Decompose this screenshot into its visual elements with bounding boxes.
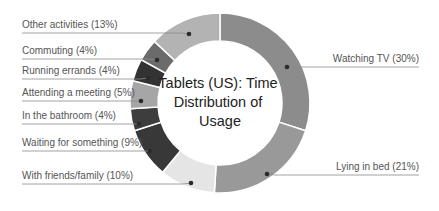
leader-dot <box>265 172 270 177</box>
slice-label: Running errands (4%) <box>22 65 120 76</box>
chart-title-line-2: Distribution of <box>174 94 264 110</box>
slice-label: With friends/family (10%) <box>22 170 133 181</box>
leader-line <box>22 78 148 79</box>
leader-dot <box>285 65 290 70</box>
slice-label: Waiting for something (9%) <box>22 137 142 148</box>
leader-dot <box>189 181 194 186</box>
chart-title-line-3: Usage <box>199 113 241 129</box>
leader-dot <box>187 32 192 37</box>
leader-line <box>267 174 419 175</box>
leader-dot <box>139 99 144 104</box>
slice-label: In the bathroom (4%) <box>22 110 116 121</box>
leader-dot <box>148 149 153 154</box>
leader-dot <box>155 58 160 63</box>
leader-dot <box>137 122 142 127</box>
chart-title: Tablets (US): Time Distribution of Usage <box>158 75 281 129</box>
slice-label: Watching TV (30%) <box>333 53 419 64</box>
slice-label: Other activities (13%) <box>22 19 118 30</box>
slice-label: Attending a meeting (5%) <box>22 87 135 98</box>
leader-line <box>22 183 191 184</box>
leader-line <box>22 59 157 60</box>
slice-label: Lying in bed (21%) <box>336 161 419 172</box>
chart-title-line-1: Tablets (US): Time <box>158 75 277 91</box>
leader-dot <box>146 76 151 81</box>
slice-lying-in-bed <box>214 122 305 193</box>
slice-label: Commuting (4%) <box>22 45 97 56</box>
donut-chart: Watching TV (30%)Lying in bed (21%)With … <box>0 0 439 211</box>
